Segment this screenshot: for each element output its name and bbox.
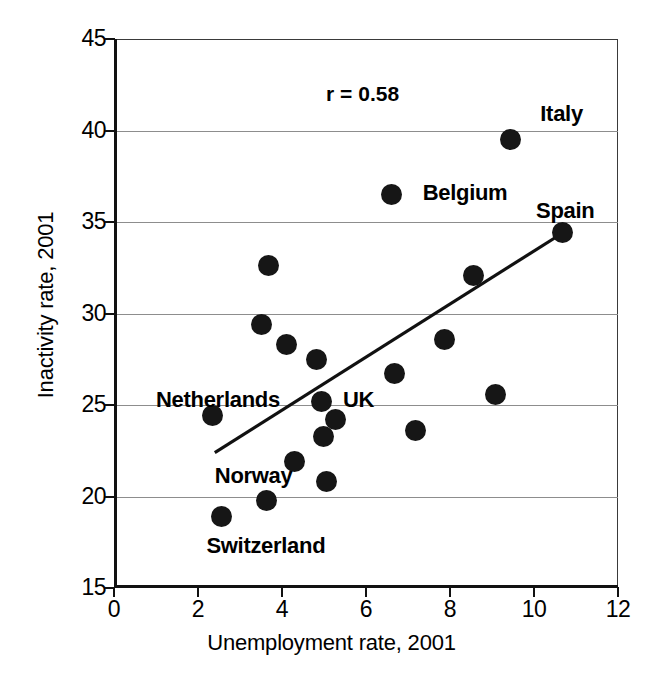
- data-point-16[interactable]: [463, 265, 484, 286]
- x-tick-label-4: 4: [262, 598, 302, 621]
- y-tick-label-45: 45: [66, 27, 106, 50]
- data-point-uk[interactable]: [311, 391, 332, 412]
- plot-frame-top: [114, 39, 618, 40]
- x-tick-label-6: 6: [346, 598, 386, 621]
- x-tick-label-10: 10: [514, 598, 554, 621]
- x-tick-6: [365, 587, 367, 597]
- y-tick-label-25: 25: [66, 393, 106, 416]
- correlation-annotation: r = 0.58: [326, 82, 399, 106]
- x-tick-label-12: 12: [598, 598, 638, 621]
- y-tick-35: [105, 221, 115, 223]
- y-tick-label-15: 15: [66, 576, 106, 599]
- y-tick-40: [105, 130, 115, 132]
- y-tick-label-20: 20: [66, 485, 106, 508]
- point-label-italy: Italy: [540, 101, 583, 127]
- scan-artifact: [0, 663, 663, 677]
- data-point-4[interactable]: [258, 255, 279, 276]
- x-axis-title: Unemployment rate, 2001: [0, 630, 663, 656]
- y-tick-25: [105, 404, 115, 406]
- x-tick-label-2: 2: [178, 598, 218, 621]
- data-point-10[interactable]: [316, 471, 337, 492]
- data-point-belgium[interactable]: [381, 184, 402, 205]
- x-tick-label-0: 0: [94, 598, 134, 621]
- x-tick-0: [113, 587, 115, 597]
- point-label-belgium: Belgium: [423, 180, 508, 206]
- data-point-15[interactable]: [434, 329, 455, 350]
- data-point-italy[interactable]: [500, 129, 521, 150]
- gridline-y-30: [114, 314, 618, 315]
- gridline-y-20: [114, 497, 618, 498]
- y-tick-20: [105, 496, 115, 498]
- y-tick-30: [105, 313, 115, 315]
- data-point-13[interactable]: [384, 363, 405, 384]
- point-label-switzerland: Switzerland: [206, 533, 325, 559]
- data-point-17[interactable]: [485, 384, 506, 405]
- point-label-uk: UK: [343, 387, 374, 413]
- data-point-14[interactable]: [405, 420, 426, 441]
- y-axis-tick-labels: 15202530354045: [58, 39, 106, 588]
- point-label-norway: Norway: [215, 463, 293, 489]
- x-tick-12: [617, 587, 619, 597]
- data-point-5[interactable]: [276, 334, 297, 355]
- x-tick-label-8: 8: [430, 598, 470, 621]
- point-label-netherlands: Netherlands: [156, 387, 280, 413]
- x-tick-8: [449, 587, 451, 597]
- y-axis-title: Inactivity rate, 2001: [33, 45, 59, 565]
- y-tick-label-30: 30: [66, 302, 106, 325]
- data-point-switzerland[interactable]: [211, 506, 232, 527]
- x-tick-10: [533, 587, 535, 597]
- chart-page: 15202530354045 024681012 ItalyBelgiumSpa…: [0, 0, 663, 677]
- data-point-2[interactable]: [251, 314, 272, 335]
- point-label-spain: Spain: [536, 198, 594, 224]
- y-tick-label-40: 40: [66, 119, 106, 142]
- y-tick-45: [105, 38, 115, 40]
- plot-area: ItalyBelgiumSpainNetherlandsUKNorwaySwit…: [114, 39, 618, 588]
- gridline-y-40: [114, 131, 618, 132]
- x-tick-2: [197, 587, 199, 597]
- x-tick-4: [281, 587, 283, 597]
- data-point-spain[interactable]: [552, 222, 573, 243]
- data-point-norway[interactable]: [256, 490, 277, 511]
- x-axis-tick-labels: 024681012: [114, 598, 618, 628]
- data-point-7[interactable]: [306, 349, 327, 370]
- y-tick-label-35: 35: [66, 210, 106, 233]
